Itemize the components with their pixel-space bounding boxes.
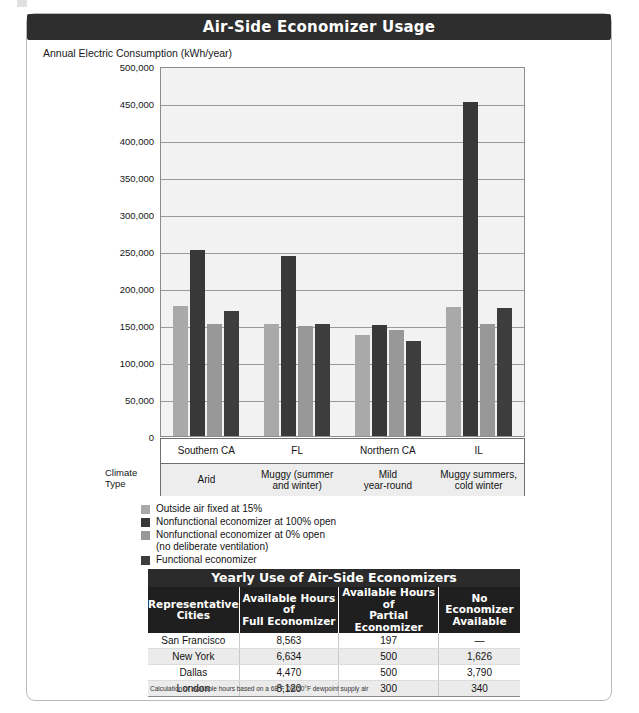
chart-legend: Outside air fixed at 15%Nonfunctional ec…: [141, 503, 336, 567]
bar: [480, 324, 495, 436]
table-cell: 4,470: [239, 665, 339, 681]
table-cell: 197: [339, 633, 439, 649]
climate-type-value: Muggy summers,cold winter: [433, 464, 524, 496]
category-label: FL: [252, 439, 343, 463]
y-tick-label: 450,000: [90, 99, 154, 110]
category-label: Southern CA: [161, 439, 252, 463]
legend-label: Outside air fixed at 15%: [156, 503, 262, 515]
category-axis-table: Southern CAFLNorthern CAIL AridMuggy (su…: [160, 438, 525, 496]
y-tick-label: 350,000: [90, 173, 154, 184]
bar: [355, 335, 370, 436]
category-label: Northern CA: [343, 439, 434, 463]
figure-title-banner: Air-Side Economizer Usage: [27, 14, 611, 40]
legend-swatch-icon: [141, 556, 150, 565]
y-axis-title: Annual Electric Consumption (kWh/year): [43, 47, 232, 59]
table-row: Dallas4,4705003,790: [148, 665, 520, 681]
economizer-data-table: Yearly Use of Air-Side Economizers Repre…: [148, 569, 520, 697]
bar: [173, 306, 188, 436]
climate-type-value: Muggy (summerand winter): [252, 464, 343, 496]
legend-swatch-icon: [141, 531, 150, 540]
climate-type-value: Arid: [161, 464, 252, 496]
legend-item: Nonfunctional economizer at 0% open(no d…: [141, 529, 336, 553]
legend-item: Outside air fixed at 15%: [141, 503, 336, 515]
data-table-header-cell: No EconomizerAvailable: [438, 587, 520, 633]
bar: [372, 325, 387, 436]
y-tick-label: 150,000: [90, 321, 154, 332]
chart-plot-area: [160, 67, 525, 437]
bar-group: [355, 68, 421, 436]
bar: [224, 311, 239, 436]
table-cell: 1,626: [438, 649, 520, 665]
data-table-header-row: RepresentativeCitiesAvailable Hours ofFu…: [148, 587, 520, 633]
data-table-header-cell: Available Hours ofFull Economizer: [239, 587, 339, 633]
table-cell: 3,790: [438, 665, 520, 681]
table-cell: —: [438, 633, 520, 649]
climate-label-line1: Climate: [105, 467, 137, 478]
table-cell: 8,563: [239, 633, 339, 649]
legend-item: Nonfunctional economizer at 100% open: [141, 516, 336, 528]
bar: [315, 324, 330, 436]
bar: [446, 307, 461, 437]
y-tick-label: 400,000: [90, 136, 154, 147]
table-cell: 500: [339, 665, 439, 681]
scan-artifact: [17, 0, 27, 7]
table-cell: New York: [148, 649, 239, 665]
climate-type-row: AridMuggy (summerand winter)Mildyear-rou…: [161, 464, 524, 496]
legend-label: Functional economizer: [156, 554, 257, 566]
legend-swatch-icon: [141, 518, 150, 527]
bar: [207, 324, 222, 436]
bar: [190, 250, 205, 436]
bar: [497, 308, 512, 436]
y-tick-label: 500,000: [90, 62, 154, 73]
y-tick-label: 50,000: [90, 395, 154, 406]
figure-title: Air-Side Economizer Usage: [203, 18, 435, 36]
y-tick-label: 0: [90, 432, 154, 443]
climate-type-value: Mildyear-round: [343, 464, 434, 496]
bar-group: [173, 68, 239, 436]
bar-group: [264, 68, 330, 436]
bar-series-container: [161, 68, 524, 436]
table-row: New York6,6345001,626: [148, 649, 520, 665]
table-cell: 500: [339, 649, 439, 665]
bar-group: [446, 68, 512, 436]
table-cell: San Francisco: [148, 633, 239, 649]
bar: [264, 324, 279, 436]
category-row: Southern CAFLNorthern CAIL: [161, 439, 524, 464]
climate-label-line2: Type: [105, 478, 137, 489]
table-cell: Dallas: [148, 665, 239, 681]
data-table-header-cell: Available Hours ofPartial Economizer: [339, 587, 439, 633]
data-table-title: Yearly Use of Air-Side Economizers: [148, 569, 520, 587]
bar: [281, 256, 296, 436]
legend-swatch-icon: [141, 505, 150, 514]
climate-type-label: Climate Type: [105, 467, 137, 490]
data-table-header-cell: RepresentativeCities: [148, 587, 239, 633]
y-axis-tick-labels: 500,000450,000400,000350,000300,000250,0…: [88, 67, 154, 437]
data-table-note: Calculation of available hours based on …: [150, 685, 368, 692]
legend-label: Nonfunctional economizer at 0% open(no d…: [156, 529, 325, 553]
table-cell: 6,634: [239, 649, 339, 665]
y-tick-label: 200,000: [90, 284, 154, 295]
table-row: San Francisco8,563197—: [148, 633, 520, 649]
bar: [406, 341, 421, 436]
bar: [389, 330, 404, 436]
category-label: IL: [433, 439, 524, 463]
bar: [463, 102, 478, 436]
table-cell: 340: [438, 681, 520, 697]
legend-item: Functional economizer: [141, 554, 336, 566]
y-tick-label: 250,000: [90, 247, 154, 258]
y-tick-label: 300,000: [90, 210, 154, 221]
bar: [298, 326, 313, 436]
y-tick-label: 100,000: [90, 358, 154, 369]
legend-label: Nonfunctional economizer at 100% open: [156, 516, 336, 528]
